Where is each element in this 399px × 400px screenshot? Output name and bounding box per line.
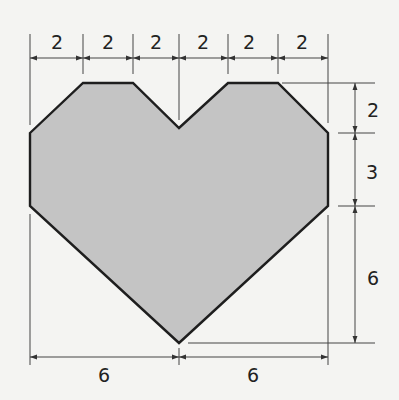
heart-shape — [30, 83, 328, 343]
right-dim-label-3: 6 — [367, 269, 379, 288]
top-dim-label-3: 2 — [150, 33, 162, 52]
top-dim-label-2: 2 — [102, 33, 114, 52]
top-dim-label-4: 2 — [197, 33, 209, 52]
bottom-dim-label-1: 6 — [98, 366, 110, 385]
right-dim-label-1: 2 — [367, 101, 379, 120]
top-dim-label-1: 2 — [51, 33, 63, 52]
top-dim-label-6: 2 — [296, 33, 308, 52]
diagram-canvas: 2 2 2 2 2 2 2 3 6 6 6 — [0, 0, 399, 400]
top-dim-label-5: 2 — [243, 33, 255, 52]
bottom-dim-label-2: 6 — [247, 366, 259, 385]
right-dim-label-2: 3 — [366, 163, 378, 182]
